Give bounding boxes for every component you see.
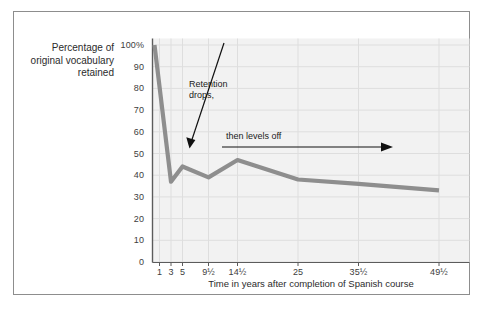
y-tick-label-40: 40 — [110, 170, 144, 180]
x-tick-label-3: 3 — [168, 267, 173, 277]
y-tick-label-50: 50 — [110, 149, 144, 159]
x-tick-label-35-half: 35½ — [350, 267, 368, 277]
x-tick-label-5: 5 — [180, 267, 185, 277]
y-tick-label-80: 80 — [110, 83, 144, 93]
x-tick-label-1: 1 — [157, 267, 162, 277]
annotation-then-levels-off: then levels off — [226, 131, 281, 142]
y-axis-title-line-1: Percentage of — [22, 42, 114, 55]
y-tick-label-60: 60 — [110, 127, 144, 137]
plot-background — [153, 39, 470, 263]
y-tick-label-30: 30 — [110, 192, 144, 202]
x-tick-label-25: 25 — [293, 267, 303, 277]
y-tick-label-0: 0 — [110, 257, 144, 267]
y-tick-label-90: 90 — [110, 62, 144, 72]
y-tick-label-20: 20 — [110, 214, 144, 224]
x-axis-title: Time in years after completion of Spanis… — [152, 278, 470, 289]
y-axis-title: Percentage of original vocabulary retain… — [22, 42, 114, 80]
annotation-retention-drops: Retention drops, — [189, 79, 228, 101]
chart-stage: Percentage of original vocabulary retain… — [0, 0, 484, 315]
y-axis-title-line-3: retained — [22, 67, 114, 80]
x-tick-label-9-half: 9½ — [202, 267, 215, 277]
y-tick-label-100: 100% — [110, 40, 144, 50]
x-tick-label-49-half: 49½ — [430, 267, 448, 277]
y-tick-label-10: 10 — [110, 235, 144, 245]
x-tick-label-14-half: 14½ — [229, 267, 247, 277]
y-axis-title-line-2: original vocabulary — [22, 55, 114, 68]
y-tick-label-70: 70 — [110, 105, 144, 115]
